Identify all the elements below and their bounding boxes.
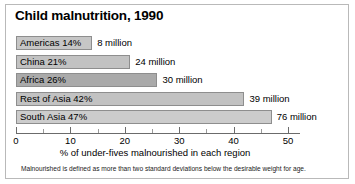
x-axis-minor-tick: [98, 129, 99, 133]
bar-value-label: 76 million: [277, 110, 317, 124]
x-axis-tick: [16, 127, 17, 133]
x-axis-tick: [70, 127, 71, 133]
bar-category-label: Americas 14%: [20, 36, 81, 50]
bar-row: Africa 26%30 million: [16, 73, 328, 87]
x-axis-tick-label: 10: [55, 135, 85, 146]
bar-category-label: Africa 26%: [20, 73, 66, 87]
bar-row: China 21%24 million: [16, 55, 328, 69]
bar-row: Americas 14%8 million: [16, 36, 328, 50]
bar-category-label: South Asia 47%: [20, 110, 87, 124]
bar-row: South Asia 47%76 million: [16, 110, 328, 124]
x-axis-tick-label: 30: [164, 135, 194, 146]
bar-category-label: Rest of Asia 42%: [20, 92, 92, 106]
bar-value-label: 39 million: [249, 92, 289, 106]
bar-chart-plot-area: Americas 14%8 millionChina 21%24 million…: [0, 0, 355, 184]
x-axis-tick: [288, 127, 289, 133]
x-axis-minor-tick: [261, 129, 262, 133]
bar-value-label: 24 million: [135, 55, 175, 69]
x-axis-minor-tick: [152, 129, 153, 133]
bar-value-label: 8 million: [97, 36, 132, 50]
bar-category-label: China 21%: [20, 55, 66, 69]
bar-row: Rest of Asia 42%39 million: [16, 92, 328, 106]
x-axis-label: % of under-fives malnourished in each re…: [0, 147, 310, 158]
x-axis-minor-tick: [43, 129, 44, 133]
x-axis-tick: [234, 127, 235, 133]
x-axis-tick-label: 20: [110, 135, 140, 146]
x-axis-line: [16, 133, 300, 134]
x-axis-tick-label: 50: [273, 135, 303, 146]
x-axis-tick: [125, 127, 126, 133]
x-axis-tick: [179, 127, 180, 133]
x-axis-tick-label: 40: [219, 135, 249, 146]
x-axis-tick-label: 0: [1, 135, 31, 146]
x-axis-minor-tick: [206, 129, 207, 133]
chart-footnote: Malnourished is defined as more than two…: [21, 165, 306, 172]
bar-value-label: 30 million: [162, 73, 202, 87]
